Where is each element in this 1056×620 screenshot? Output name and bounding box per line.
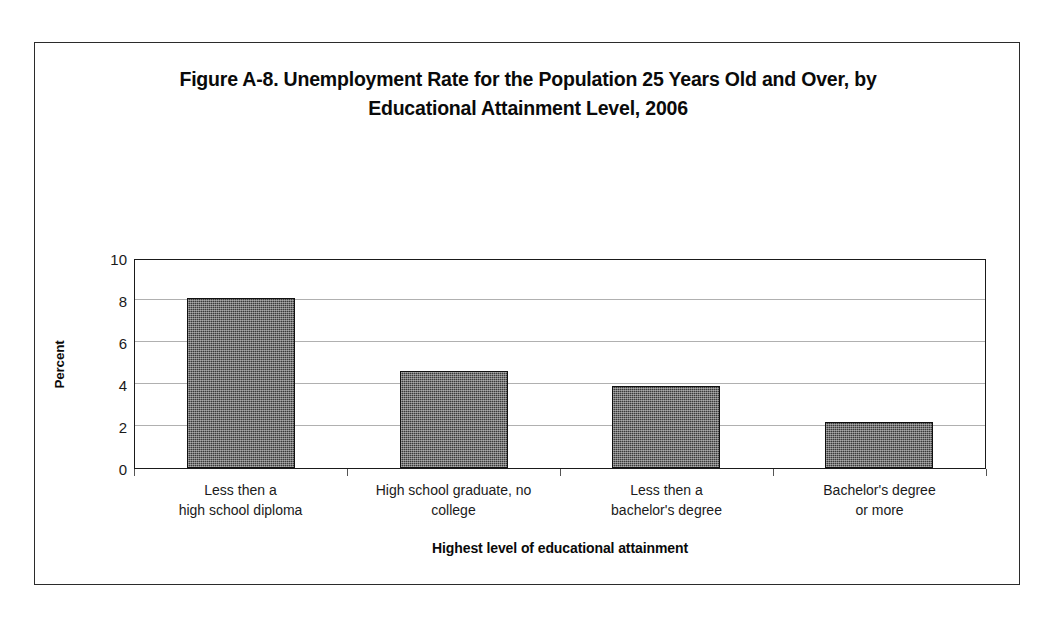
x-category-label-4: Bachelor's degreeor more bbox=[773, 480, 986, 520]
x-category-label-3-line-1: Less then a bbox=[630, 482, 702, 498]
x-category-label-1-line-2: high school diploma bbox=[134, 500, 347, 520]
x-axis-title: Highest level of educational attainment bbox=[134, 540, 986, 556]
bar-slot-4 bbox=[773, 260, 986, 468]
x-category-label-1: Less then ahigh school diploma bbox=[134, 480, 347, 520]
plot-area bbox=[134, 259, 986, 469]
y-tick-label-0: 0 bbox=[119, 461, 127, 478]
x-axis-tickmarks bbox=[134, 469, 986, 476]
y-tick-label-2: 2 bbox=[119, 419, 127, 436]
y-axis-title: Percent bbox=[48, 259, 70, 469]
x-tick-mark-3 bbox=[773, 469, 774, 476]
x-category-label-4-line-1: Bachelor's degree bbox=[823, 482, 935, 498]
y-axis-title-label: Percent bbox=[52, 340, 67, 388]
bar-1[interactable] bbox=[187, 298, 295, 468]
bar-slot-3 bbox=[560, 260, 773, 468]
bar-3[interactable] bbox=[612, 386, 720, 468]
x-category-label-4-line-2: or more bbox=[773, 500, 986, 520]
bar-2[interactable] bbox=[400, 371, 508, 468]
x-category-label-3: Less then abachelor's degree bbox=[560, 480, 773, 520]
x-tick-mark-1 bbox=[347, 469, 348, 476]
x-tick-mark-4 bbox=[986, 469, 987, 476]
bar-slot-1 bbox=[135, 260, 348, 468]
x-category-label-2-line-1: High school graduate, no bbox=[376, 482, 532, 498]
y-axis-ticks: 0246810 bbox=[87, 259, 127, 469]
y-tick-label-10: 10 bbox=[110, 251, 127, 268]
chart-title: Figure A-8. Unemployment Rate for the Po… bbox=[95, 65, 961, 123]
bar-series bbox=[135, 260, 985, 468]
chart-title-line-2: Educational Attainment Level, 2006 bbox=[368, 97, 688, 119]
bar-4[interactable] bbox=[825, 422, 933, 468]
x-category-label-2-line-2: college bbox=[347, 500, 560, 520]
figure-border: Figure A-8. Unemployment Rate for the Po… bbox=[34, 42, 1020, 585]
y-tick-label-4: 4 bbox=[119, 377, 127, 394]
plot-wrapper bbox=[134, 259, 986, 469]
x-category-label-2: High school graduate, nocollege bbox=[347, 480, 560, 520]
bar-slot-2 bbox=[348, 260, 561, 468]
x-category-label-3-line-2: bachelor's degree bbox=[560, 500, 773, 520]
x-tick-mark-0 bbox=[134, 469, 135, 476]
x-tick-mark-2 bbox=[560, 469, 561, 476]
x-axis-category-labels: Less then ahigh school diplomaHigh schoo… bbox=[134, 480, 986, 520]
chart-title-line-1: Figure A-8. Unemployment Rate for the Po… bbox=[179, 68, 876, 90]
y-tick-label-8: 8 bbox=[119, 293, 127, 310]
x-category-label-1-line-1: Less then a bbox=[204, 482, 276, 498]
y-tick-label-6: 6 bbox=[119, 335, 127, 352]
